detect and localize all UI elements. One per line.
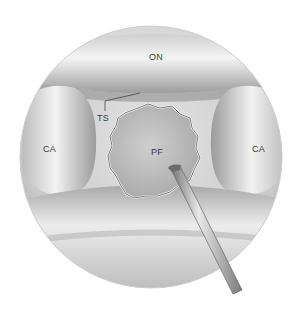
label-ca-left: CA [43, 144, 56, 154]
label-ts: TS [97, 113, 109, 123]
label-pf: PF [151, 147, 163, 157]
label-on: ON [149, 52, 163, 62]
label-ca-right: CA [252, 144, 265, 154]
surgical-illustration: ON TS CA CA PF [0, 0, 307, 310]
